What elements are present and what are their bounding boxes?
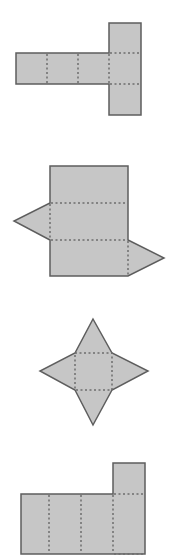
net-3-square-pyramid (40, 319, 148, 425)
net-2-triangular-prism (14, 166, 164, 276)
nets-diagram (0, 0, 182, 557)
net-4-partial-prism (21, 463, 145, 554)
